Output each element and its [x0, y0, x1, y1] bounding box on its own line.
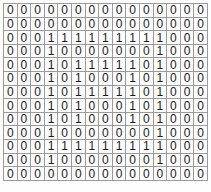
binary-cell: 1 — [71, 99, 85, 113]
binary-cell: 1 — [153, 72, 167, 86]
binary-cell: 1 — [85, 140, 99, 154]
binary-cell: 0 — [31, 126, 45, 140]
binary-cell: 0 — [99, 44, 113, 58]
binary-cell: 0 — [180, 112, 194, 126]
binary-cell: 0 — [17, 58, 31, 72]
binary-cell: 1 — [44, 44, 58, 58]
binary-cell: 0 — [112, 4, 126, 18]
binary-cell: 0 — [17, 112, 31, 126]
binary-grid-row: 000101000101000 — [4, 72, 208, 86]
binary-cell: 0 — [85, 72, 99, 86]
binary-cell: 0 — [126, 4, 140, 18]
binary-cell: 0 — [85, 17, 99, 31]
binary-cell: 0 — [194, 153, 208, 167]
binary-cell: 0 — [99, 17, 113, 31]
binary-cell: 0 — [139, 17, 153, 31]
binary-cell: 0 — [17, 99, 31, 113]
binary-cell: 0 — [17, 153, 31, 167]
binary-cell: 0 — [17, 85, 31, 99]
binary-cell: 0 — [4, 85, 18, 99]
binary-cell: 0 — [99, 4, 113, 18]
binary-cell: 0 — [58, 4, 72, 18]
binary-cell: 0 — [99, 126, 113, 140]
binary-cell: 1 — [58, 140, 72, 154]
binary-cell: 1 — [71, 140, 85, 154]
binary-cell: 0 — [44, 4, 58, 18]
binary-cell: 0 — [194, 126, 208, 140]
binary-cell: 1 — [44, 153, 58, 167]
binary-cell: 0 — [180, 17, 194, 31]
binary-cell: 0 — [139, 58, 153, 72]
binary-cell: 0 — [17, 31, 31, 45]
binary-cell: 1 — [99, 85, 113, 99]
binary-cell: 0 — [4, 99, 18, 113]
binary-cell: 0 — [4, 17, 18, 31]
binary-cell: 0 — [17, 72, 31, 86]
binary-cell: 0 — [112, 99, 126, 113]
binary-cell: 1 — [44, 58, 58, 72]
binary-cell: 1 — [71, 112, 85, 126]
binary-cell: 1 — [139, 140, 153, 154]
binary-cell: 1 — [99, 31, 113, 45]
binary-cell: 0 — [167, 126, 181, 140]
binary-cell: 0 — [194, 31, 208, 45]
binary-cell: 0 — [194, 99, 208, 113]
binary-cell: 0 — [167, 85, 181, 99]
binary-grid-body: 0000000000000000000000000000000001111111… — [4, 4, 208, 181]
binary-cell: 0 — [17, 126, 31, 140]
binary-cell: 0 — [194, 140, 208, 154]
binary-cell: 1 — [139, 31, 153, 45]
binary-grid-row: 000101111101000 — [4, 85, 208, 99]
binary-cell: 0 — [194, 85, 208, 99]
binary-cell: 0 — [139, 4, 153, 18]
binary-cell: 1 — [44, 140, 58, 154]
binary-cell: 0 — [17, 17, 31, 31]
binary-cell: 1 — [126, 72, 140, 86]
binary-cell: 1 — [44, 112, 58, 126]
binary-cell: 0 — [58, 167, 72, 181]
binary-cell: 0 — [153, 17, 167, 31]
binary-cell: 1 — [85, 31, 99, 45]
binary-cell: 0 — [17, 140, 31, 154]
binary-cell: 0 — [4, 140, 18, 154]
binary-cell: 1 — [112, 85, 126, 99]
binary-cell: 1 — [126, 112, 140, 126]
binary-cell: 0 — [31, 167, 45, 181]
binary-cell: 0 — [4, 58, 18, 72]
binary-cell: 0 — [167, 4, 181, 18]
binary-cell: 0 — [85, 4, 99, 18]
binary-cell: 1 — [44, 99, 58, 113]
binary-cell: 0 — [139, 99, 153, 113]
binary-cell: 0 — [58, 126, 72, 140]
binary-cell: 0 — [17, 4, 31, 18]
binary-cell: 1 — [44, 31, 58, 45]
binary-cell: 0 — [4, 72, 18, 86]
binary-cell: 1 — [153, 31, 167, 45]
binary-cell: 0 — [126, 126, 140, 140]
binary-cell: 0 — [31, 85, 45, 99]
binary-cell: 1 — [71, 58, 85, 72]
binary-cell: 0 — [194, 4, 208, 18]
binary-grid-row: 000100000001000 — [4, 153, 208, 167]
binary-cell: 0 — [85, 112, 99, 126]
binary-cell: 1 — [71, 31, 85, 45]
binary-cell: 0 — [180, 4, 194, 18]
binary-cell: 1 — [71, 85, 85, 99]
binary-cell: 0 — [4, 167, 18, 181]
binary-cell: 0 — [17, 167, 31, 181]
binary-cell: 1 — [153, 140, 167, 154]
binary-cell: 0 — [112, 17, 126, 31]
binary-cell: 0 — [194, 167, 208, 181]
binary-cell: 0 — [85, 126, 99, 140]
binary-cell: 0 — [112, 44, 126, 58]
binary-grid-row: 000000000000000 — [4, 4, 208, 18]
binary-cell: 0 — [4, 112, 18, 126]
binary-cell: 0 — [194, 112, 208, 126]
binary-cell: 0 — [4, 126, 18, 140]
binary-cell: 0 — [167, 17, 181, 31]
binary-cell: 0 — [153, 4, 167, 18]
binary-cell: 1 — [112, 31, 126, 45]
binary-cell: 1 — [112, 58, 126, 72]
binary-cell: 0 — [180, 99, 194, 113]
binary-cell: 0 — [194, 44, 208, 58]
